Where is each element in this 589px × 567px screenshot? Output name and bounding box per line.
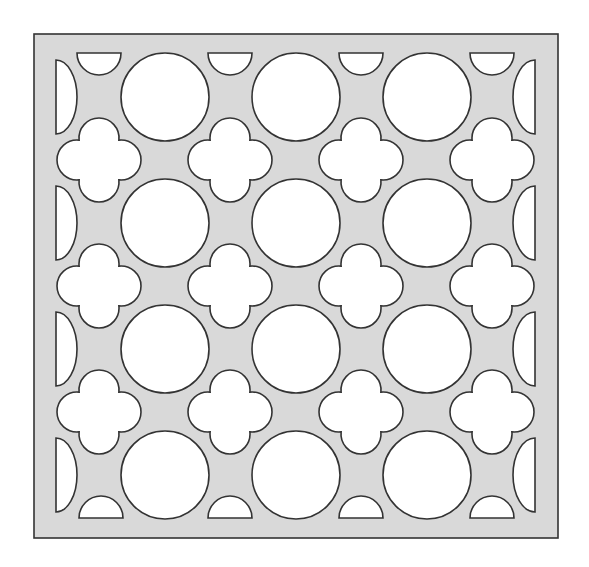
lattice-diagram: [0, 0, 589, 567]
circle-cutout: [121, 53, 209, 141]
circle-cutout: [121, 431, 209, 519]
circle-cutout: [383, 431, 471, 519]
circle-cutout: [121, 179, 209, 267]
circle-cutout: [383, 179, 471, 267]
circle-cutout: [383, 305, 471, 393]
circle-cutout: [252, 305, 340, 393]
circle-cutout: [252, 53, 340, 141]
circle-cutout: [383, 53, 471, 141]
circle-cutout: [252, 431, 340, 519]
circle-cutout: [252, 179, 340, 267]
lattice-panel-svg: [0, 0, 589, 567]
circle-cutout: [121, 305, 209, 393]
